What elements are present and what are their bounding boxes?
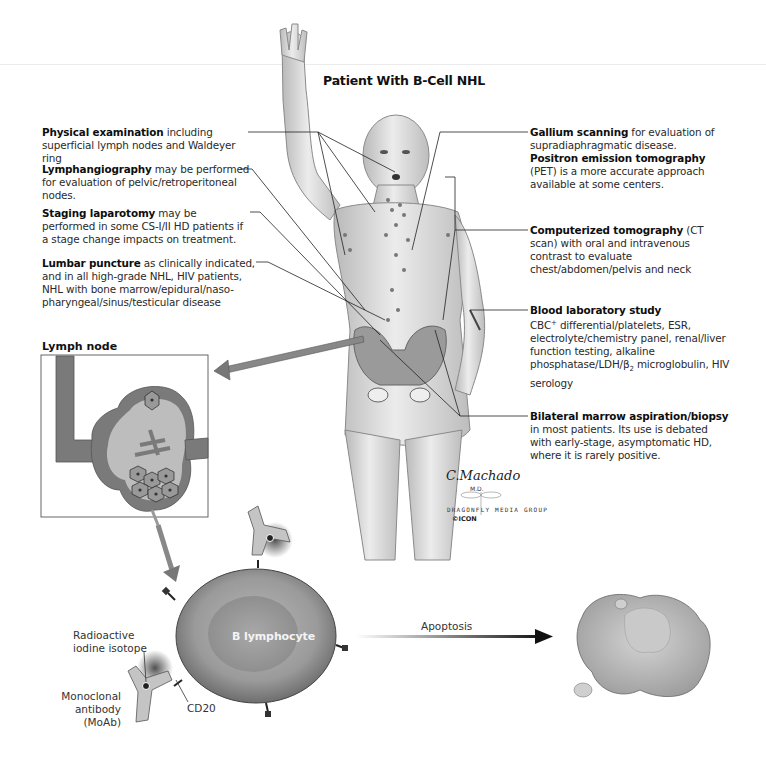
annotation-blood-lab: Blood laboratory study CBC+ differential…: [530, 304, 730, 390]
cd20-label: CD20: [187, 702, 216, 715]
moab-label: Monoclonal antibody (MoAb): [35, 690, 121, 729]
annotation-ct-scan: Computerized tomography (CT scan) with o…: [530, 224, 725, 276]
annotation-heading: Blood laboratory study: [530, 304, 661, 316]
annotation-heading: Staging laparotomy: [42, 207, 155, 219]
pointer-arrow: [214, 336, 364, 380]
annotation-text-2: (PET) is a more accurate approach availa…: [530, 165, 705, 190]
annotation-lumbar-puncture: Lumbar puncture as clinically indicated,…: [42, 257, 260, 309]
annotation-marrow-biopsy: Bilateral marrow aspiration/biopsy in mo…: [530, 410, 730, 462]
annotation-text: in most patients. Its use is debated wit…: [530, 423, 712, 461]
annotation-text: CBC: [530, 319, 551, 331]
annotation-physical-exam: Physical examination including superfici…: [42, 126, 252, 165]
artist-signature: C.Machado: [446, 468, 520, 483]
annotation-heading: Lumbar puncture: [42, 257, 141, 269]
annotation-heading: Lymphangiography: [42, 163, 152, 175]
annotation-heading: Gallium scanning: [530, 126, 628, 138]
antibody-bottom: [128, 650, 188, 722]
artist-credential: M.D.: [470, 485, 484, 492]
annotation-gallium-pet: Gallium scanning for evaluation of supra…: [530, 126, 720, 191]
publisher-logo: ©ICON: [452, 515, 477, 523]
radioactive-label-line1: Radioactive: [73, 629, 147, 642]
annotation-heading: Bilateral marrow aspiration/biopsy: [530, 410, 728, 422]
moab-label-line1: Monoclonal: [35, 690, 121, 703]
apoptosis-label: Apoptosis: [421, 620, 472, 632]
annotation-heading: Computerized tomography: [530, 224, 683, 236]
radioactive-label-line2: iodine isotope: [73, 642, 147, 655]
moab-label-line2: antibody (MoAb): [35, 703, 121, 729]
lymph-node-diagram: [41, 355, 208, 525]
page-title: Patient With B-Cell NHL: [323, 73, 485, 88]
lymph-node-title: Lymph node: [42, 340, 117, 353]
publisher-name: DRAGONFLY MEDIA GROUP: [447, 506, 548, 513]
b-lymphocyte-label: B lymphocyte: [232, 630, 315, 643]
annotation-lymphangiography: Lymphangiography may be performed for ev…: [42, 163, 252, 202]
annotation-staging-laparotomy: Staging laparotomy may be performed in s…: [42, 207, 252, 246]
annotation-heading-2: Positron emission tomography: [530, 152, 705, 164]
radioactive-label: Radioactive iodine isotope: [73, 629, 147, 655]
annotation-heading: Physical examination: [42, 126, 164, 138]
antibody-top: [248, 506, 293, 558]
apoptotic-cell: [574, 594, 710, 697]
